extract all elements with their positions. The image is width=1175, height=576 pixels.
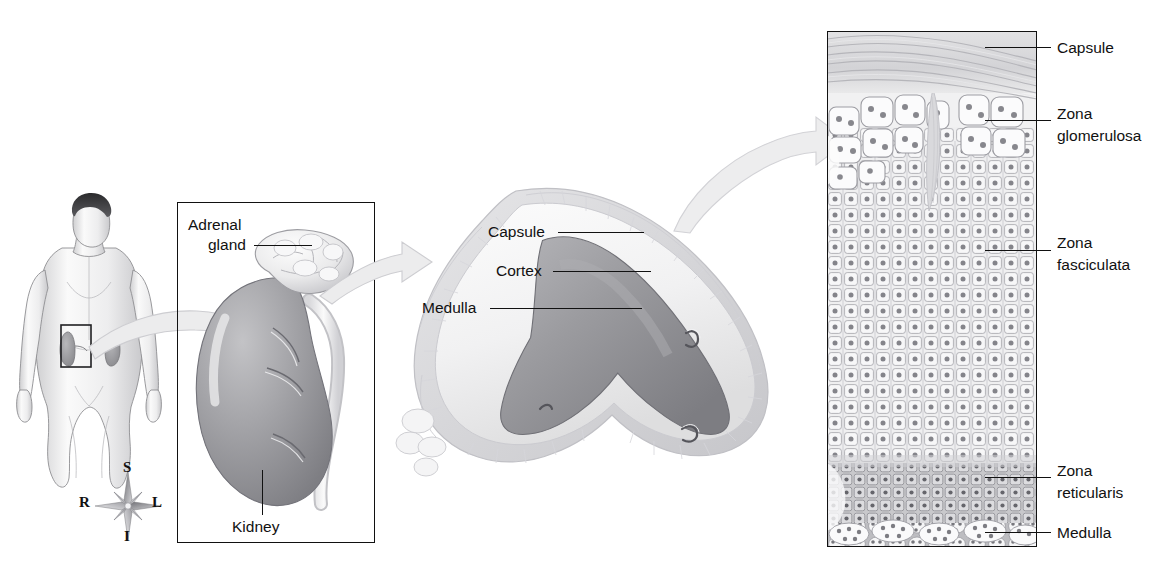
leader-medulla-histology <box>985 532 1051 533</box>
label-capsule-section: Capsule <box>488 222 545 241</box>
leader-zona-glomerulosa <box>985 120 1051 121</box>
label-adrenal-gland-line2: gland <box>208 235 246 254</box>
leader-capsule-histology <box>985 47 1051 48</box>
leader-kidney <box>262 470 263 515</box>
label-kidney: Kidney <box>232 517 279 536</box>
histology-panel-border <box>827 31 1037 547</box>
leader-capsule-section <box>558 232 644 233</box>
leader-medulla-section <box>490 308 642 309</box>
leader-zona-reticularis <box>985 477 1051 478</box>
figure-canvas: S I R L <box>0 0 1175 576</box>
label-medulla-histology: Medulla <box>1057 523 1111 542</box>
label-zona-glomerulosa-line1: Zona <box>1057 104 1092 123</box>
label-capsule-histology: Capsule <box>1057 38 1114 57</box>
label-adrenal-gland-line1: Adrenal <box>188 215 241 234</box>
leader-cortex-section <box>553 271 651 272</box>
leader-adrenal-gland <box>254 245 312 246</box>
label-zona-reticularis-line2: reticularis <box>1057 483 1123 502</box>
label-cortex-section: Cortex <box>496 261 542 280</box>
label-zona-reticularis-line1: Zona <box>1057 461 1092 480</box>
compass-label-inferior: I <box>124 528 130 545</box>
label-medulla-section: Medulla <box>422 298 476 317</box>
label-zona-glomerulosa-line2: glomerulosa <box>1057 126 1141 145</box>
compass-label-left: L <box>152 494 162 511</box>
label-zona-fasciculata-line1: Zona <box>1057 233 1092 252</box>
compass-label-right: R <box>79 494 90 511</box>
label-zona-fasciculata-line2: fasciculata <box>1057 255 1130 274</box>
leader-zona-fasciculata <box>985 250 1051 251</box>
adrenal-section-illustration <box>390 175 830 575</box>
compass-label-superior: S <box>123 459 131 476</box>
